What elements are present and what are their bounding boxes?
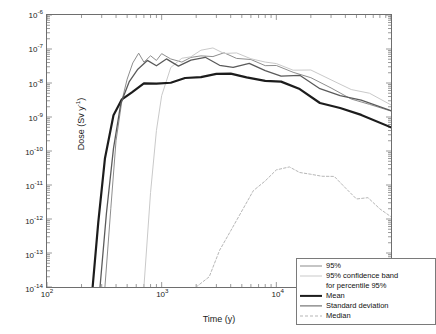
y-tick-label: 10-8 — [29, 79, 43, 88]
legend-item-label: 95% confidence band — [326, 271, 398, 281]
legend-item-label: Mean — [326, 291, 345, 301]
y-tick-label: 10-6 — [29, 11, 43, 20]
plot-area: Dose (Sv y-1) 10-610-710-810-910-1010-11… — [46, 14, 392, 288]
legend-item-label: Standard deviation — [326, 301, 389, 311]
y-axis-label: Dose (Sv y-1) — [76, 64, 86, 184]
legend-item-label: 95% — [326, 261, 341, 271]
legend-item-label: for percentile 95% — [326, 281, 386, 291]
legend-item: 95% confidence band — [300, 271, 432, 281]
y-tick-label: 10-13 — [25, 250, 43, 259]
legend-line-swatch — [300, 271, 322, 281]
legend-item: Mean — [300, 291, 432, 301]
series-line — [144, 48, 391, 287]
legend-item: Standard deviation — [300, 301, 432, 311]
y-tick-label: 10-9 — [29, 113, 43, 122]
x-axis-label: Time (y) — [46, 314, 392, 324]
plot-canvas — [47, 15, 391, 287]
legend-item: 95% — [300, 261, 432, 271]
y-tick-label: 10-12 — [25, 216, 43, 225]
y-tick-label: 10-11 — [26, 182, 43, 191]
legend-line-swatch — [300, 301, 322, 311]
legend-item: for percentile 95% — [300, 281, 432, 291]
series-line — [93, 74, 391, 287]
y-tick-label: 10-10 — [25, 148, 43, 157]
x-tick-label: 104 — [271, 290, 283, 299]
figure-title-faint — [96, 0, 332, 6]
legend-line-swatch — [300, 261, 322, 271]
legend-line-swatch — [300, 281, 322, 291]
legend-line-swatch — [300, 291, 322, 301]
chart-svg — [47, 15, 391, 287]
x-tick-label: 103 — [156, 290, 168, 299]
y-axis-label-text: Dose (Sv y-1) — [76, 98, 86, 151]
axis-ticks — [47, 15, 391, 287]
series-line — [100, 57, 391, 287]
x-tick-label: 102 — [41, 290, 53, 299]
y-tick-label: 10-7 — [29, 45, 43, 54]
